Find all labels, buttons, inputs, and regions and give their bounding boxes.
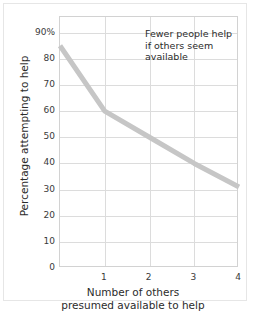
fewer-people-help-note: Fewer people helpif others seemavailable — [145, 28, 245, 63]
y-tick-label-20: 20 — [0, 210, 55, 220]
y-tick-label-60: 60 — [0, 105, 55, 115]
annotation-line-3: available — [145, 51, 245, 63]
y-tick-label-80: 80 — [0, 53, 55, 63]
chart-figure: Percentage attempting to help 0102030405… — [0, 0, 253, 320]
annotation-line-2: if others seem — [145, 40, 245, 52]
x-axis-title-line-1: Number of others — [28, 286, 238, 299]
x-tick-label-2: 2 — [139, 272, 159, 283]
y-tick-label-50: 50 — [0, 131, 55, 141]
x-tick-label-3: 3 — [183, 272, 203, 283]
y-tick-label-10: 10 — [0, 236, 55, 246]
y-tick-label-70: 70 — [0, 79, 55, 89]
x-tick-label-4: 4 — [228, 272, 248, 283]
x-axis-tick-labels: 1234 — [0, 272, 253, 286]
y-tick-label-0: 0 — [0, 262, 55, 272]
x-axis-title-line-2: presumed available to help — [28, 299, 238, 312]
y-tick-label-40: 40 — [0, 157, 55, 167]
series-polyline — [60, 46, 239, 187]
y-tick-label-90: 90% — [0, 27, 55, 37]
annotation-line-1: Fewer people help — [145, 28, 245, 40]
x-axis-title: Number of otherspresumed available to he… — [28, 286, 238, 312]
y-tick-label-30: 30 — [0, 184, 55, 194]
x-tick-label-1: 1 — [94, 272, 114, 283]
